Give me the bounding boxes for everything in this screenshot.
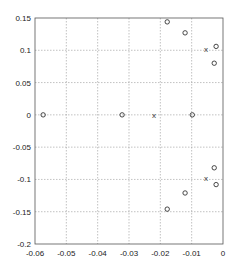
x-tick-label: -0.06: [26, 249, 45, 258]
x-tick-label: -0.02: [151, 249, 170, 258]
x-tick-label: 0: [221, 249, 226, 258]
y-tick-label: 0.1: [20, 46, 32, 55]
x-axis-tick-labels: -0.06-0.05-0.04-0.03-0.02-0.010: [26, 249, 226, 258]
x-tick-label: -0.01: [183, 249, 202, 258]
y-axis-tick-labels: 0.150.10.050-0.05-0.1-0.15-0.2: [13, 14, 32, 249]
y-tick-label: 0: [27, 111, 32, 120]
zero-marker-circle: [214, 44, 218, 48]
zero-marker-circle: [183, 191, 187, 195]
zero-marker-circle: [165, 207, 169, 211]
x-tick-label: -0.05: [57, 249, 76, 258]
x-tick-label: -0.04: [89, 249, 108, 258]
grid-lines: [35, 18, 223, 244]
x-tick-label: -0.03: [120, 249, 139, 258]
y-tick-label: 0.05: [15, 79, 31, 88]
pole-marker-x: x: [152, 111, 156, 120]
pole-marker-x: x: [204, 45, 208, 54]
y-tick-label: -0.1: [17, 175, 31, 184]
pole-zero-chart: -0.06-0.05-0.04-0.03-0.02-0.010 0.150.10…: [0, 0, 237, 267]
zero-marker-circle: [212, 166, 216, 170]
zero-marker-circle: [183, 31, 187, 35]
y-tick-label: -0.15: [13, 208, 32, 217]
zero-marker-circle: [165, 20, 169, 24]
y-tick-label: -0.05: [13, 143, 32, 152]
pole-marker-x: x: [204, 174, 208, 183]
y-tick-label: 0.15: [15, 14, 31, 23]
zero-marker-circle: [212, 61, 216, 65]
y-tick-label: -0.2: [17, 240, 31, 249]
zero-marker-circle: [214, 182, 218, 186]
